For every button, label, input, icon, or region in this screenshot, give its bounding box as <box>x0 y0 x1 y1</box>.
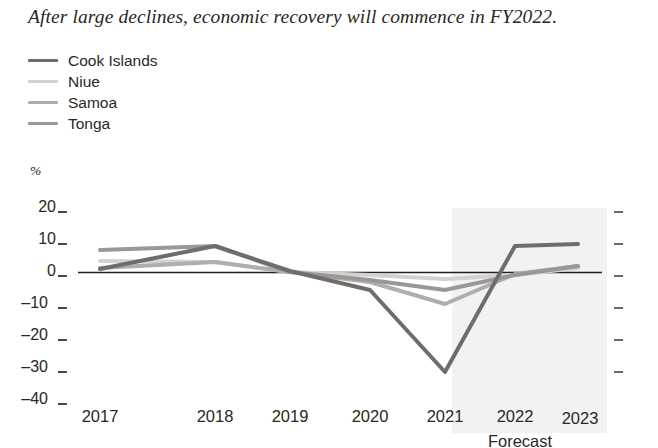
x-tick-label-2018: 2018 <box>180 407 250 426</box>
series-lines <box>0 0 658 448</box>
x-tick-label-2021: 2021 <box>410 407 480 426</box>
x-tick-label-2017: 2017 <box>65 407 135 426</box>
forecast-axis-label: Forecast <box>460 432 580 448</box>
plot-area: % 20 10 0 –10 –20 –30 –40 <box>0 0 658 448</box>
chart-figure: After large declines, economic recovery … <box>0 0 658 448</box>
x-tick-label-2019: 2019 <box>255 407 325 426</box>
x-tick-label-2022: 2022 <box>480 407 550 426</box>
x-tick-label-2023: 2023 <box>545 409 615 428</box>
x-tick-label-2020: 2020 <box>335 407 405 426</box>
